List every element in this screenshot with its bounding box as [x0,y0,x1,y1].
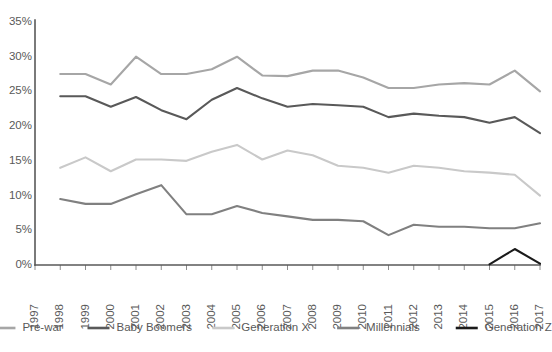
x-tick-label: 2005 [230,304,242,330]
x-tick-label: 1999 [79,304,91,330]
y-tick-label: 35% [9,15,32,27]
legend-label: Baby Boomers [117,321,193,333]
x-tick-label: 2009 [331,304,343,330]
legend-item-generation-x[interactable]: Generation X [212,321,309,333]
line-chart-container: 35%30%25%20%15%10%5%0% 19971998199920002… [0,0,552,352]
y-tick-label: 20% [9,119,32,131]
y-axis-tick-labels: 35%30%25%20%15%10%5%0% [9,15,32,270]
y-tick-label: 0% [15,258,32,270]
legend-label: Generation X [241,321,309,333]
legend-item-pre-war[interactable]: Pre-war [0,321,63,333]
legend-item-millennials[interactable]: Millennials [337,321,420,333]
y-tick-label: 10% [9,189,32,201]
y-tick-label: 15% [9,154,32,166]
y-tick-label: 5% [15,223,32,235]
legend-label: Pre-war [22,321,62,333]
series-line-generation-z [490,249,541,264]
legend-label: Millennials [366,321,420,333]
x-tick-label: 2013 [432,304,444,330]
chart-svg: 35%30%25%20%15%10%5%0% 19971998199920002… [0,0,552,352]
y-tick-label: 30% [9,50,32,62]
series-line-pre-war [60,57,540,92]
legend-label: Generation Z [485,321,552,333]
series-lines-group [60,57,540,265]
legend-item-generation-z[interactable]: Generation Z [456,321,552,333]
x-tick-label: 2000 [104,304,116,330]
series-line-generation-x [60,145,540,196]
x-tick-label: 2004 [205,303,217,329]
y-tick-label: 25% [9,84,32,96]
series-line-baby-boomers [60,88,540,133]
x-tick-label: 2014 [457,303,469,329]
series-line-millennials [60,185,540,235]
